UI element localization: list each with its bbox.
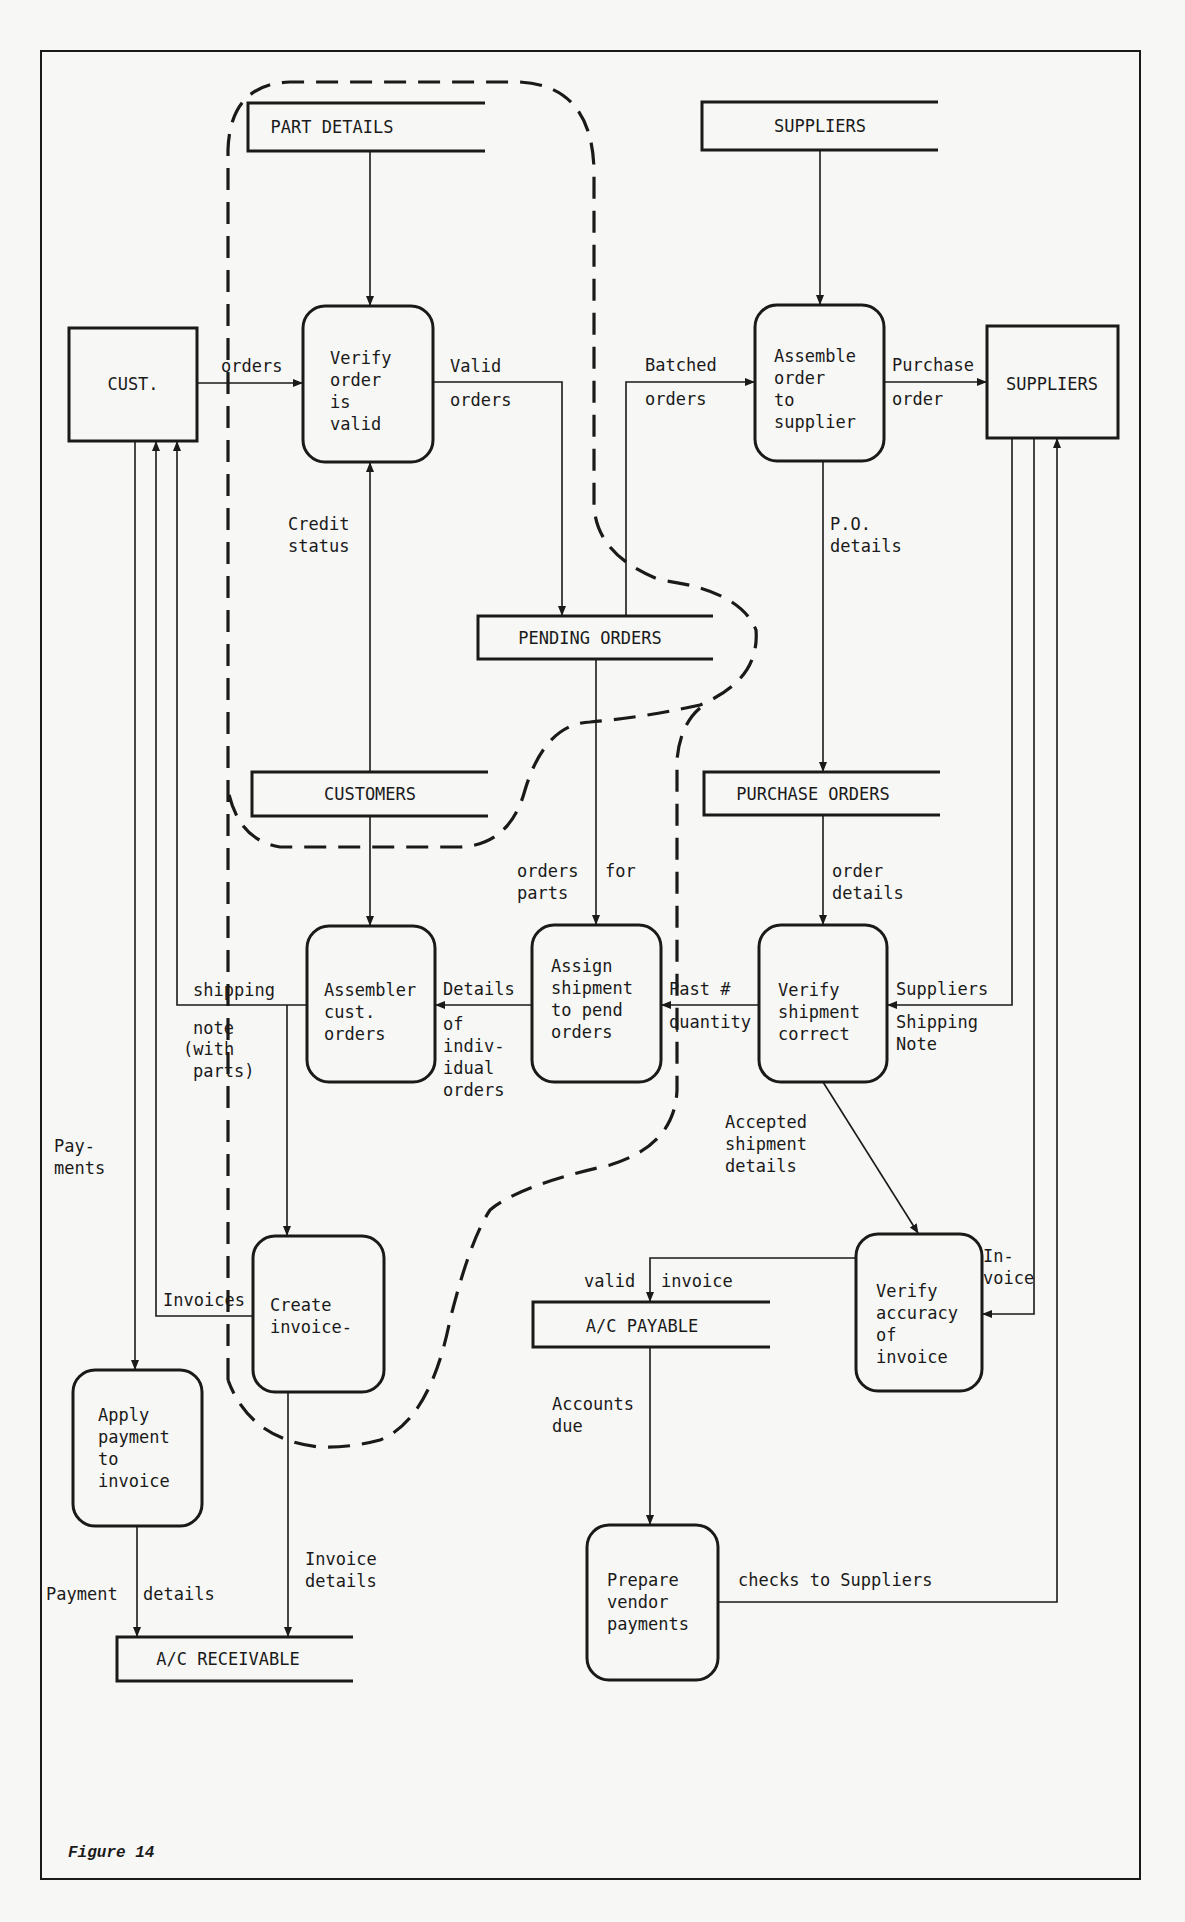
- flow-label-payment-details: Payment: [46, 1584, 118, 1604]
- flow-label-valid-invoice: valid: [584, 1271, 635, 1291]
- process-label-line: Assign: [551, 956, 612, 976]
- process-label-line: accuracy: [876, 1303, 958, 1323]
- process-label-line: to: [98, 1449, 118, 1469]
- process-create-invoice[interactable]: Create invoice-: [253, 1236, 384, 1392]
- process-label-line: vendor: [607, 1592, 668, 1612]
- process-label-line: invoice: [98, 1471, 170, 1491]
- process-verify-shipment[interactable]: Verify shipment correct: [759, 925, 887, 1082]
- process-verify-accuracy[interactable]: Verify accuracy of invoice: [856, 1234, 982, 1391]
- entity-customer-label: CUST.: [107, 374, 158, 394]
- flow-label-valid-invoice: invoice: [661, 1271, 733, 1291]
- flow-label-details-individual-orders: orders: [443, 1080, 504, 1100]
- store-part-details-label: PART DETAILS: [271, 117, 394, 137]
- flow-label-accepted-shipment: details: [725, 1156, 797, 1176]
- flow-label-credit-status: Credit: [288, 514, 349, 534]
- flow-label-shipping-note: note: [193, 1018, 234, 1038]
- process-apply-payment[interactable]: Apply payment to invoice: [73, 1370, 202, 1526]
- process-label-line: shipment: [551, 978, 633, 998]
- flow-label-invoice: voice: [983, 1268, 1034, 1288]
- data-flow-diagram: CUST. SUPPLIERS PART DETAILS SUPPLIERS P…: [0, 0, 1185, 1922]
- flow-label-orders-for-parts: parts: [517, 883, 568, 903]
- store-purchase-orders-label: PURCHASE ORDERS: [736, 784, 890, 804]
- store-purchase-orders[interactable]: PURCHASE ORDERS: [704, 772, 940, 815]
- process-label-line: of: [876, 1325, 896, 1345]
- flow-label-po-details: details: [830, 536, 902, 556]
- flow-label-details-individual-orders: indiv-: [443, 1036, 504, 1056]
- flow-label-details-individual-orders: of: [443, 1014, 463, 1034]
- process-assembler-cust-orders[interactable]: Assembler cust. orders: [307, 926, 435, 1082]
- process-label-line: cust.: [324, 1002, 375, 1022]
- flow-label-accounts-due: Accounts: [552, 1394, 634, 1414]
- flow-label-shipping-note: (with: [183, 1039, 234, 1059]
- flow-label-po-details: P.O.: [830, 514, 871, 534]
- process-label-line: invoice: [876, 1347, 948, 1367]
- process-label-line: Apply: [98, 1405, 149, 1425]
- entity-suppliers-label: SUPPLIERS: [1006, 374, 1098, 394]
- entity-suppliers[interactable]: SUPPLIERS: [987, 326, 1118, 438]
- process-label-line: shipment: [778, 1002, 860, 1022]
- flow-label-valid-orders: orders: [450, 390, 511, 410]
- process-label-line: order: [330, 370, 381, 390]
- flow-label-purchase-order: Purchase: [892, 355, 974, 375]
- process-label-line: to: [774, 390, 794, 410]
- store-pending-orders-label: PENDING ORDERS: [518, 628, 661, 648]
- flow-label-suppliers-shipping-note: Shipping: [896, 1012, 978, 1032]
- store-ac-payable[interactable]: A/C PAYABLE: [533, 1302, 770, 1347]
- flow-label-orders-for-parts: orders: [517, 861, 578, 881]
- flow-label-invoice: In-: [983, 1246, 1014, 1266]
- system-boundary-dashed: [228, 82, 756, 1447]
- process-prepare-vendor-payments[interactable]: Prepare vendor payments: [587, 1525, 718, 1680]
- process-label-line: orders: [324, 1024, 385, 1044]
- store-ac-receivable[interactable]: A/C RECEIVABLE: [117, 1637, 353, 1681]
- process-label-line: supplier: [774, 412, 856, 432]
- flow-label-suppliers-shipping-note: Note: [896, 1034, 937, 1054]
- process-label-line: is: [330, 392, 350, 412]
- flow-label-credit-status: status: [288, 536, 349, 556]
- flow-label-invoice-details: Invoice: [305, 1549, 377, 1569]
- process-assign-shipment[interactable]: Assign shipment to pend orders: [532, 925, 661, 1082]
- figure-caption: Figure 14: [68, 1844, 155, 1862]
- store-suppliers-label: SUPPLIERS: [774, 116, 866, 136]
- flow-label-orders-for-parts: for: [605, 861, 636, 881]
- store-part-details[interactable]: PART DETAILS: [248, 103, 485, 151]
- flow-label-details-individual-orders: Details: [443, 979, 515, 999]
- flow-label-shipping-note: shipping: [193, 980, 275, 1000]
- process-label-line: order: [774, 368, 825, 388]
- process-verify-order[interactable]: Verify order is valid: [303, 306, 433, 462]
- store-customers[interactable]: CUSTOMERS: [252, 772, 488, 816]
- store-ac-payable-label: A/C PAYABLE: [586, 1316, 699, 1336]
- flow-label-payments: Pay-: [54, 1136, 95, 1156]
- flow-label-past-quantity: quantity: [669, 1012, 751, 1032]
- flow-label-payment-details: details: [143, 1584, 215, 1604]
- process-label-line: Assembler: [324, 980, 416, 1000]
- entity-customer[interactable]: CUST.: [69, 328, 197, 441]
- flow-label-shipping-note: parts): [193, 1061, 254, 1081]
- process-label-line: to pend: [551, 1000, 623, 1020]
- flow-label-invoice-details: details: [305, 1571, 377, 1591]
- store-suppliers[interactable]: SUPPLIERS: [702, 102, 938, 150]
- store-ac-receivable-label: A/C RECEIVABLE: [156, 1649, 299, 1669]
- flow-label-order-details: details: [832, 883, 904, 903]
- flow-label-past-quantity: Past #: [669, 979, 731, 999]
- process-label-line: payment: [98, 1427, 170, 1447]
- flow-label-checks-to-suppliers: checks to Suppliers: [738, 1570, 932, 1590]
- store-customers-label: CUSTOMERS: [324, 784, 416, 804]
- flow-label-accepted-shipment: Accepted: [725, 1112, 807, 1132]
- flow-label-accounts-due: due: [552, 1416, 583, 1436]
- flow-label-batched-orders: orders: [645, 389, 706, 409]
- flow-label-details-individual-orders: idual: [443, 1058, 494, 1078]
- flow-label-batched-orders: Batched: [645, 355, 717, 375]
- flow-label-invoices: Invoices: [163, 1290, 245, 1310]
- flow-label-valid-orders: Valid: [450, 356, 501, 376]
- process-label-line: orders: [551, 1022, 612, 1042]
- process-label-line: Verify: [330, 348, 391, 368]
- process-label-line: Assemble: [774, 346, 856, 366]
- process-label-line: valid: [330, 414, 381, 434]
- process-label-line: Prepare: [607, 1570, 679, 1590]
- store-pending-orders[interactable]: PENDING ORDERS: [478, 616, 713, 659]
- process-assemble-order[interactable]: Assemble order to supplier: [755, 305, 884, 461]
- process-label-line: correct: [778, 1024, 850, 1044]
- flow-label-suppliers-shipping-note: Suppliers: [896, 979, 988, 999]
- process-label-line: invoice-: [270, 1317, 352, 1337]
- process-label-line: payments: [607, 1614, 689, 1634]
